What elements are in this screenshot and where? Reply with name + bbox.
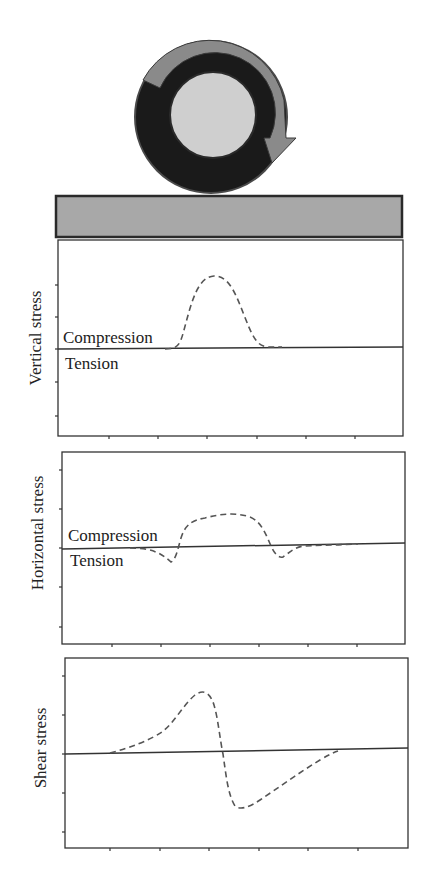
pavement-surface xyxy=(56,196,402,237)
compression-label: Compression xyxy=(68,526,158,545)
vertical-stress-plot: Compression Tension Vertical stress xyxy=(26,240,403,439)
zero-line xyxy=(58,347,403,349)
shear-stress-plot: Shear stress xyxy=(31,658,408,851)
horizontal-stress-plot: Compression Tension Horizontal stress xyxy=(28,452,405,647)
vertical-stress-curve xyxy=(165,276,282,349)
horizontal-stress-curve xyxy=(130,514,358,562)
y-axis-label: Horizontal stress xyxy=(28,476,47,591)
y-axis-label: Vertical stress xyxy=(26,291,45,386)
wheel xyxy=(135,40,296,193)
tension-label: Tension xyxy=(70,551,124,570)
zero-line xyxy=(65,748,408,754)
wheel-hub xyxy=(170,72,256,158)
pavement-stress-diagram: Compression Tension Vertical stress Comp… xyxy=(0,0,430,880)
y-axis-label: Shear stress xyxy=(31,708,50,789)
tension-label: Tension xyxy=(65,354,119,373)
compression-label: Compression xyxy=(63,328,153,347)
